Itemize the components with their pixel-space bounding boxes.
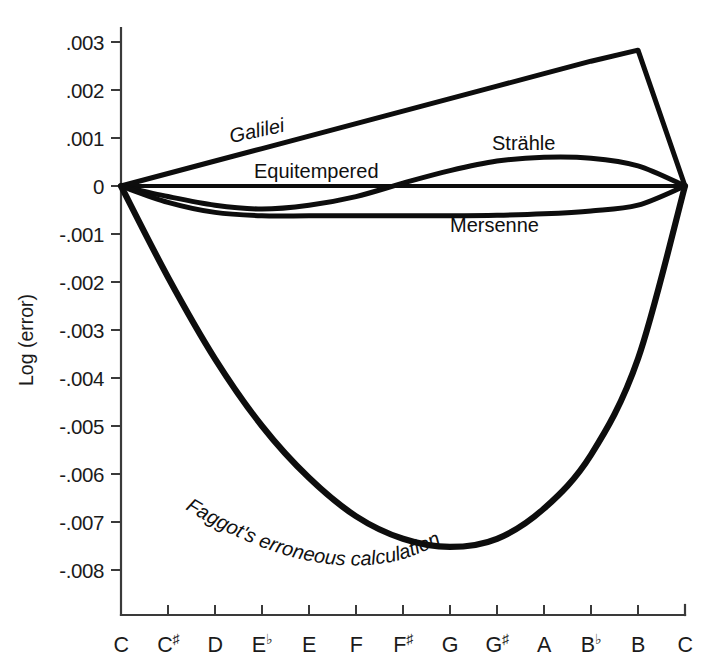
y-tick-label: -.006: [59, 463, 104, 486]
y-tick-label: -.005: [59, 415, 104, 438]
x-tick-label-e-flat: E♭: [252, 631, 273, 657]
curve-galilei: [121, 50, 685, 186]
y-tick-label: -.003: [59, 319, 104, 342]
x-tick-label-e: E: [302, 633, 316, 657]
x-tick-label-a: A: [537, 633, 552, 657]
x-tick-label-f: F: [350, 633, 363, 657]
y-tick-label: -.007: [59, 511, 104, 534]
y-axis-ticks: [111, 42, 121, 570]
y-tick-label: .002: [66, 79, 104, 102]
x-tick-label-g-sharp: G♯: [486, 631, 510, 657]
y-tick-label: -.004: [59, 367, 104, 390]
x-tick-label-g: G: [442, 633, 458, 657]
y-axis-tick-labels: .003 .002 .001 0 -.001 -.002 -.003 -.004…: [59, 31, 104, 582]
curve-mersenne: [121, 186, 685, 216]
chart-figure: .003 .002 .001 0 -.001 -.002 -.003 -.004…: [0, 0, 716, 669]
x-tick-label-c-high: C: [677, 633, 692, 657]
curve-label-mersenne: Mersenne: [450, 214, 539, 236]
x-axis-ticks: [121, 605, 685, 615]
x-tick-label-c-low: C: [113, 633, 128, 657]
x-tick-label-d: D: [207, 633, 222, 657]
curve-faggot: [121, 186, 685, 547]
data-curves-group: [121, 50, 685, 547]
x-tick-label-b-flat: B♭: [581, 631, 602, 657]
x-axis-tick-labels: C C♯ D E♭ E F F♯ G G♯ A B♭ B C: [113, 631, 692, 657]
error-log-line-chart: .003 .002 .001 0 -.001 -.002 -.003 -.004…: [0, 0, 716, 669]
y-tick-label: -.001: [59, 223, 104, 246]
y-tick-label: -.008: [59, 559, 104, 582]
y-tick-label: -.002: [59, 271, 104, 294]
curve-label-equitempered: Equitempered: [254, 160, 379, 182]
axes-group: [121, 28, 685, 615]
x-tick-label-b: B: [631, 633, 645, 657]
x-tick-label-f-sharp: F♯: [393, 631, 414, 657]
y-tick-label: .003: [66, 31, 104, 54]
y-axis-title: Log (error): [15, 294, 37, 386]
y-tick-label: .001: [66, 127, 104, 150]
x-tick-label-c-sharp: C♯: [157, 631, 180, 657]
curve-label-strahle: Strähle: [492, 132, 555, 154]
y-tick-label: 0: [93, 175, 104, 198]
